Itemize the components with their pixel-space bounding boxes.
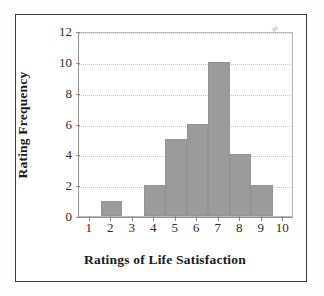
x-axis-ticks: 12345678910 bbox=[78, 221, 293, 241]
y-tick-mark-4 bbox=[76, 155, 80, 156]
x-tick-label-2: 2 bbox=[98, 221, 122, 234]
x-tick-mark-6 bbox=[196, 216, 197, 221]
y-tick-label-2: 2 bbox=[50, 179, 72, 192]
x-tick-mark-9 bbox=[261, 216, 262, 221]
x-tick-mark-2 bbox=[110, 216, 111, 221]
bar-6 bbox=[187, 124, 209, 217]
bar-series bbox=[79, 33, 292, 216]
x-tick-mark-10 bbox=[282, 216, 283, 221]
y-tick-label-0: 0 bbox=[50, 210, 72, 223]
bar-4 bbox=[144, 185, 166, 216]
x-axis-title: Ratings of Life Satisfaction bbox=[40, 252, 290, 268]
bar-2 bbox=[101, 201, 123, 216]
x-tick-label-4: 4 bbox=[141, 221, 165, 234]
x-tick-label-8: 8 bbox=[227, 221, 251, 234]
x-tick-label-5: 5 bbox=[163, 221, 187, 234]
y-tick-label-4: 4 bbox=[50, 148, 72, 161]
x-tick-label-9: 9 bbox=[249, 221, 273, 234]
x-tick-label-1: 1 bbox=[77, 221, 101, 234]
x-tick-label-3: 3 bbox=[120, 221, 144, 234]
x-tick-label-10: 10 bbox=[270, 221, 294, 234]
x-tick-mark-7 bbox=[218, 216, 219, 221]
y-tick-mark-8 bbox=[76, 94, 80, 95]
bar-5 bbox=[165, 139, 187, 216]
y-tick-mark-12 bbox=[76, 32, 80, 33]
x-tick-mark-1 bbox=[89, 216, 90, 221]
figure: 024681012 12345678910 Ratings of Life Sa… bbox=[0, 0, 324, 296]
x-tick-mark-3 bbox=[132, 216, 133, 221]
y-axis-ticks: 024681012 bbox=[48, 32, 72, 217]
y-tick-label-12: 12 bbox=[50, 25, 72, 38]
plot-area bbox=[78, 32, 293, 217]
y-axis-title: Rating Frequency bbox=[15, 55, 31, 195]
x-tick-mark-8 bbox=[239, 216, 240, 221]
y-tick-mark-6 bbox=[76, 125, 80, 126]
x-tick-mark-4 bbox=[153, 216, 154, 221]
y-tick-label-10: 10 bbox=[50, 56, 72, 69]
y-tick-label-8: 8 bbox=[50, 87, 72, 100]
y-tick-mark-10 bbox=[76, 63, 80, 64]
y-tick-mark-2 bbox=[76, 186, 80, 187]
y-tick-mark-0 bbox=[76, 217, 80, 218]
bar-8 bbox=[230, 154, 252, 216]
x-tick-mark-5 bbox=[175, 216, 176, 221]
bar-7 bbox=[208, 62, 230, 216]
x-tick-label-7: 7 bbox=[206, 221, 230, 234]
bar-9 bbox=[251, 185, 273, 216]
x-tick-label-6: 6 bbox=[184, 221, 208, 234]
y-tick-label-6: 6 bbox=[50, 118, 72, 131]
